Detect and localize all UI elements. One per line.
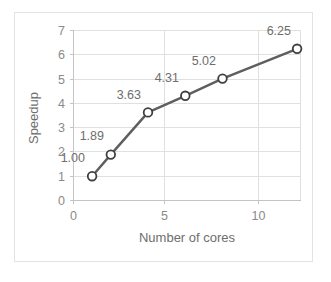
y-tick-label-5: 5 xyxy=(58,73,65,87)
plot-canvas: 7 6 5 4 3 2 1 0 0 5 10 1.00 xyxy=(0,0,331,282)
y-tick-marks xyxy=(70,31,74,201)
value-label-4-cores: 3.63 xyxy=(117,88,141,102)
y-tick-label-7: 7 xyxy=(58,24,65,38)
value-label-1-cores: 1.00 xyxy=(61,151,85,165)
data-point-2-cores xyxy=(107,150,116,159)
value-label-6-cores: 4.31 xyxy=(155,71,179,85)
value-label-8-cores: 5.02 xyxy=(192,54,216,68)
y-tick-label-6: 6 xyxy=(58,48,65,62)
y-tick-label-0: 0 xyxy=(58,194,65,208)
x-axis-title: Number of cores xyxy=(139,230,236,245)
x-tick-label-5: 5 xyxy=(161,209,168,223)
data-point-8-cores xyxy=(218,74,227,83)
data-point-6-cores xyxy=(181,92,190,101)
value-label-12-cores: 6.25 xyxy=(267,24,291,38)
x-tick-label-10: 10 xyxy=(252,209,266,223)
y-axis-title: Speedup xyxy=(26,92,41,144)
data-point-4-cores xyxy=(144,108,153,117)
y-tick-label-1: 1 xyxy=(58,170,65,184)
x-tick-marks xyxy=(74,201,259,205)
speedup-line-chart: 7 6 5 4 3 2 1 0 0 5 10 1.00 xyxy=(0,0,331,282)
x-tick-labels: 0 5 10 xyxy=(70,209,265,223)
data-value-labels: 1.00 1.89 3.63 4.31 5.02 6.25 xyxy=(61,24,291,165)
x-tick-label-0: 0 xyxy=(70,209,77,223)
data-point-12-cores xyxy=(293,45,302,54)
y-tick-labels: 7 6 5 4 3 2 1 0 xyxy=(58,24,65,208)
value-label-2-cores: 1.89 xyxy=(80,129,104,143)
data-point-1-cores xyxy=(88,172,97,181)
y-tick-label-4: 4 xyxy=(58,97,65,111)
y-tick-label-3: 3 xyxy=(58,121,65,135)
